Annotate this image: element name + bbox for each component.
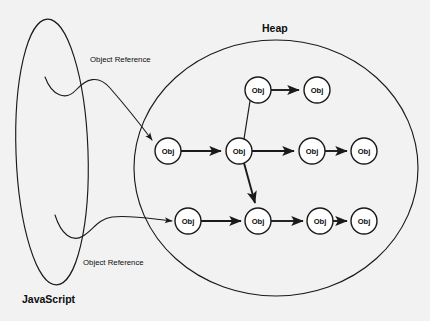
node-t1[interactable]: Obj	[245, 77, 271, 103]
javascript-label: JavaScript	[22, 293, 76, 305]
node-m2[interactable]: Obj	[226, 138, 252, 164]
edge-t1-m2	[244, 101, 250, 139]
node-label: Obj	[252, 217, 265, 226]
node-label: Obj	[252, 86, 265, 95]
region-javascript	[11, 18, 92, 286]
node-m3[interactable]: Obj	[299, 138, 325, 164]
diagram-canvas: Obj Obj Obj Obj Obj Obj Obj Obj	[0, 0, 430, 321]
node-b1[interactable]: Obj	[175, 208, 201, 234]
region-heap	[134, 40, 418, 296]
edge-m2-b2	[244, 163, 255, 203]
node-label: Obj	[306, 147, 319, 156]
node-label: Obj	[358, 217, 371, 226]
node-m1[interactable]: Obj	[155, 138, 181, 164]
object-reference-label-top: Object Reference	[90, 55, 151, 64]
node-label: Obj	[314, 217, 327, 226]
node-b2[interactable]: Obj	[245, 208, 271, 234]
edge-line-m2-b2	[244, 163, 255, 203]
diagram-svg: Obj Obj Obj Obj Obj Obj Obj Obj	[0, 0, 430, 321]
node-label: Obj	[162, 147, 175, 156]
node-m4[interactable]: Obj	[351, 138, 377, 164]
node-label: Obj	[182, 217, 195, 226]
node-b3[interactable]: Obj	[307, 208, 333, 234]
reference-path-top	[45, 77, 152, 140]
edge-line-t1-m2	[244, 101, 250, 139]
node-b4[interactable]: Obj	[351, 208, 377, 234]
heap-label: Heap	[262, 22, 288, 34]
node-label: Obj	[358, 147, 371, 156]
node-label: Obj	[311, 86, 324, 95]
reference-curve-top	[45, 77, 152, 140]
object-reference-label-bottom: Object Reference	[83, 258, 144, 267]
node-t2[interactable]: Obj	[304, 77, 330, 103]
javascript-ellipse	[11, 18, 92, 286]
heap-ellipse	[134, 40, 418, 296]
node-label: Obj	[233, 147, 246, 156]
